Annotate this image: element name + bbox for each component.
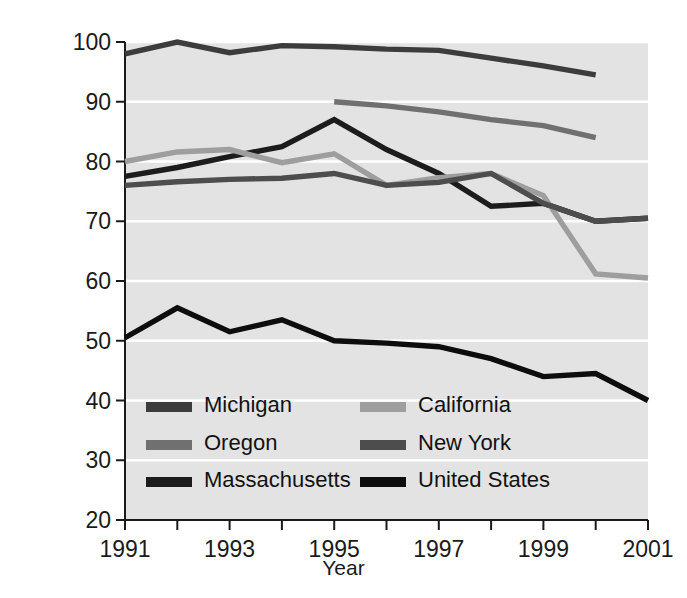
- chart-figure: Percent container redemption rate Year M…: [0, 0, 687, 598]
- legend-label-california: California: [418, 392, 512, 417]
- y-tick-label: 30: [49, 449, 111, 472]
- x-tick-label: 1995: [289, 538, 379, 561]
- x-tick-label: 1993: [185, 538, 275, 561]
- y-tick-label: 60: [49, 270, 111, 293]
- legend-label-michigan: Michigan: [204, 392, 292, 417]
- y-tick-label: 50: [49, 330, 111, 353]
- legend-swatch-new-york: [360, 440, 406, 450]
- legend-swatch-oregon: [146, 440, 192, 450]
- y-tick-label: 100: [49, 31, 111, 54]
- legend-label-oregon: Oregon: [204, 430, 277, 455]
- legend-label-united-states: United States: [418, 467, 550, 492]
- legend-swatch-california: [360, 402, 406, 412]
- y-tick-label: 40: [49, 390, 111, 413]
- legend-swatch-massachusetts: [146, 477, 192, 487]
- legend-label-new-york: New York: [418, 430, 512, 455]
- y-tick-label: 90: [49, 91, 111, 114]
- y-tick-label: 70: [49, 210, 111, 233]
- x-tick-label: 2001: [603, 538, 687, 561]
- y-tick-label: 20: [49, 509, 111, 532]
- x-tick-label: 1991: [80, 538, 170, 561]
- y-tick-label: 80: [49, 151, 111, 174]
- legend-swatch-united-states: [360, 477, 406, 487]
- legend-label-massachusetts: Massachusetts: [204, 467, 351, 492]
- x-tick-label: 1997: [394, 538, 484, 561]
- x-tick-label: 1999: [498, 538, 588, 561]
- legend-swatch-michigan: [146, 402, 192, 412]
